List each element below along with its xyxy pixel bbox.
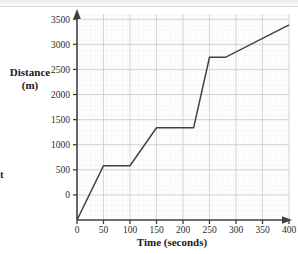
distance-time-graph-figure: 0 500 1000 1500 2000 2500 3000 3500 0 50… xyxy=(0,0,298,254)
chart-canvas xyxy=(0,0,298,254)
y-tick-label-3000: 3000 xyxy=(36,40,70,50)
x-tick-label-150: 150 xyxy=(144,225,170,235)
y-axis-title: Distance (m) xyxy=(2,66,58,92)
y-axis-title-line2: (m) xyxy=(2,79,58,92)
x-tick-label-300: 300 xyxy=(223,225,249,235)
x-tick-label-350: 350 xyxy=(250,225,276,235)
x-tick-label-50: 50 xyxy=(91,225,117,235)
x-tick-label-200: 200 xyxy=(170,225,196,235)
y-tick-label-1500: 1500 xyxy=(36,115,70,125)
y-tick-label-1000: 1000 xyxy=(36,140,70,150)
x-tick-label-0: 0 xyxy=(64,225,90,235)
x-tick-label-400: 400 xyxy=(276,225,298,235)
y-axis-title-line1: Distance xyxy=(10,66,50,78)
y-tick-label-500: 500 xyxy=(36,165,70,175)
y-tick-label-0: 0 xyxy=(36,190,70,200)
margin-text-fragment: t xyxy=(0,168,4,180)
x-axis-title: Time (seconds) xyxy=(92,236,252,248)
y-tick-label-3500: 3500 xyxy=(36,15,70,25)
x-tick-label-250: 250 xyxy=(197,225,223,235)
x-tick-label-100: 100 xyxy=(117,225,143,235)
